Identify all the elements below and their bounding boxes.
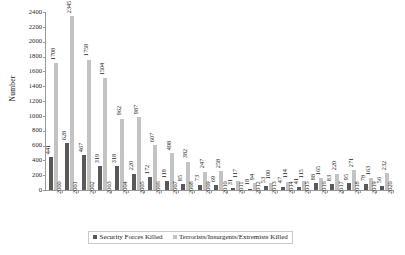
x-axis-tick-label: 2007 [172, 181, 178, 194]
bar-value-label: 498 [166, 141, 172, 150]
bar-value-label: 220 [331, 161, 337, 170]
x-axis-tick-label: 2000 [56, 181, 62, 194]
bar-value-label: 83 [326, 175, 332, 181]
bar-value-label: 163 [364, 166, 370, 175]
bar-value-label: 94 [248, 174, 254, 180]
x-axis-tick-label: 2020 [387, 181, 393, 194]
bar-value-label: 117 [232, 169, 238, 178]
y-axis-tick-label: 2400 [16, 9, 42, 16]
bar-group: 78163 [360, 12, 377, 190]
bar-value-label: 47 [277, 177, 283, 183]
bar-value-label: 1504 [99, 63, 105, 75]
bar-group: 85382 [178, 12, 195, 190]
legend-swatch-icon [173, 235, 177, 239]
bar: 318 [115, 166, 119, 190]
x-axis-tick-label: 2018 [354, 181, 360, 194]
bar: 1708 [54, 63, 58, 190]
y-axis-tick-label: 600 [16, 142, 42, 149]
bar: 88 [314, 183, 318, 190]
bar-group: 47114 [277, 12, 294, 190]
bar: 83 [330, 184, 334, 190]
bar-group: 220987 [128, 12, 145, 190]
x-axis-tick-label: 2010 [222, 181, 228, 194]
y-axis-tick-label: 1200 [16, 98, 42, 105]
bar-value-label: 114 [282, 169, 288, 178]
bar-group: 88165 [310, 12, 327, 190]
bar: 172 [148, 177, 152, 190]
legend-item-security-forces-killed: Security Forces Killed [93, 233, 163, 241]
bar-value-label: 220 [127, 161, 133, 170]
legend-label: Terrorists/Insurgents/Extremists Killed [179, 233, 288, 241]
x-axis-tick-label: 2017 [338, 181, 344, 194]
legend-swatch-icon [93, 235, 97, 239]
bar-value-label: 119 [161, 169, 167, 178]
legend-item-terrorists-insurgents-extremists-killed: Terrorists/Insurgents/Extremists Killed [173, 233, 288, 241]
x-axis-tick-label: 2006 [155, 181, 161, 194]
bar-chart: Number 020040060080010001200140016001800… [0, 0, 405, 255]
bar-value-label: 115 [298, 169, 304, 178]
chart-legend: Security Forces Killed Terrorists/Insurg… [88, 231, 293, 244]
bar: 78 [364, 184, 368, 190]
x-axis-tick-label: 2003 [106, 181, 112, 194]
bar: 467 [82, 155, 86, 190]
x-axis-tick-label: 2011 [238, 181, 244, 194]
bar: 41 [297, 187, 301, 190]
x-axis-tick-label: 2008 [188, 181, 194, 194]
bar: 1758 [87, 60, 91, 190]
bar-group: 41115 [294, 12, 311, 190]
bar-value-label: 1758 [83, 44, 89, 56]
bar-value-label: 987 [132, 105, 138, 114]
bar-group: 31117 [227, 12, 244, 190]
bar: 962 [120, 119, 124, 190]
bar: 73 [198, 185, 202, 190]
bar: 69 [214, 185, 218, 190]
bar: 53 [264, 186, 268, 190]
bar-group: 1894 [244, 12, 261, 190]
y-axis-tick-label: 200 [16, 172, 42, 179]
bar: 319 [98, 166, 102, 190]
x-axis-tick-label: 2012 [255, 181, 261, 194]
plot-area: 0200400600800100012001400160018002000220… [45, 12, 393, 190]
bar-value-label: 95 [343, 174, 349, 180]
bar-group: 119498 [161, 12, 178, 190]
x-axis-tick-label: 2019 [371, 181, 377, 194]
bar-value-label: 247 [199, 159, 205, 168]
bar-group: 318962 [111, 12, 128, 190]
x-axis-tick-label: 2002 [89, 181, 95, 194]
bar: 2345 [70, 16, 74, 190]
bar-value-label: 628 [61, 131, 67, 140]
y-axis-tick-label: 1600 [16, 68, 42, 75]
x-axis-tick-label: 2005 [139, 181, 145, 194]
bar-value-label: 2345 [66, 1, 72, 13]
bar-value-label: 165 [315, 165, 321, 174]
legend-label: Security Forces Killed [100, 233, 163, 241]
bar: 1504 [103, 78, 107, 190]
bar-value-label: 962 [116, 106, 122, 115]
bar-group: 56232 [376, 12, 393, 190]
bar-value-label: 73 [194, 175, 200, 181]
bar-value-label: 607 [149, 133, 155, 142]
bar-value-label: 232 [381, 161, 387, 170]
y-axis-tick-label: 1800 [16, 53, 42, 60]
y-axis-tick-label: 400 [16, 157, 42, 164]
y-axis-tick-label: 1000 [16, 113, 42, 120]
bar-group: 95271 [343, 12, 360, 190]
bar: 95 [347, 183, 351, 190]
y-axis-tick-label: 2000 [16, 38, 42, 45]
bar: 220 [132, 174, 136, 190]
bar-value-label: 319 [94, 154, 100, 163]
bar-value-label: 441 [45, 145, 51, 154]
bar: 47 [281, 187, 285, 190]
x-axis-tick-label: 2013 [271, 181, 277, 194]
bar-group: 53100 [260, 12, 277, 190]
x-axis-tick-label: 2004 [122, 181, 128, 194]
bar: 628 [65, 143, 69, 190]
bar: 119 [165, 181, 169, 190]
bar-value-label: 318 [111, 154, 117, 163]
bar-value-label: 88 [310, 174, 316, 180]
bar-value-label: 258 [215, 159, 221, 168]
y-axis-tick-label: 800 [16, 127, 42, 134]
bar-group: 6282345 [62, 12, 79, 190]
y-axis-tick-label: 0 [16, 187, 42, 194]
bar-value-label: 467 [78, 143, 84, 152]
